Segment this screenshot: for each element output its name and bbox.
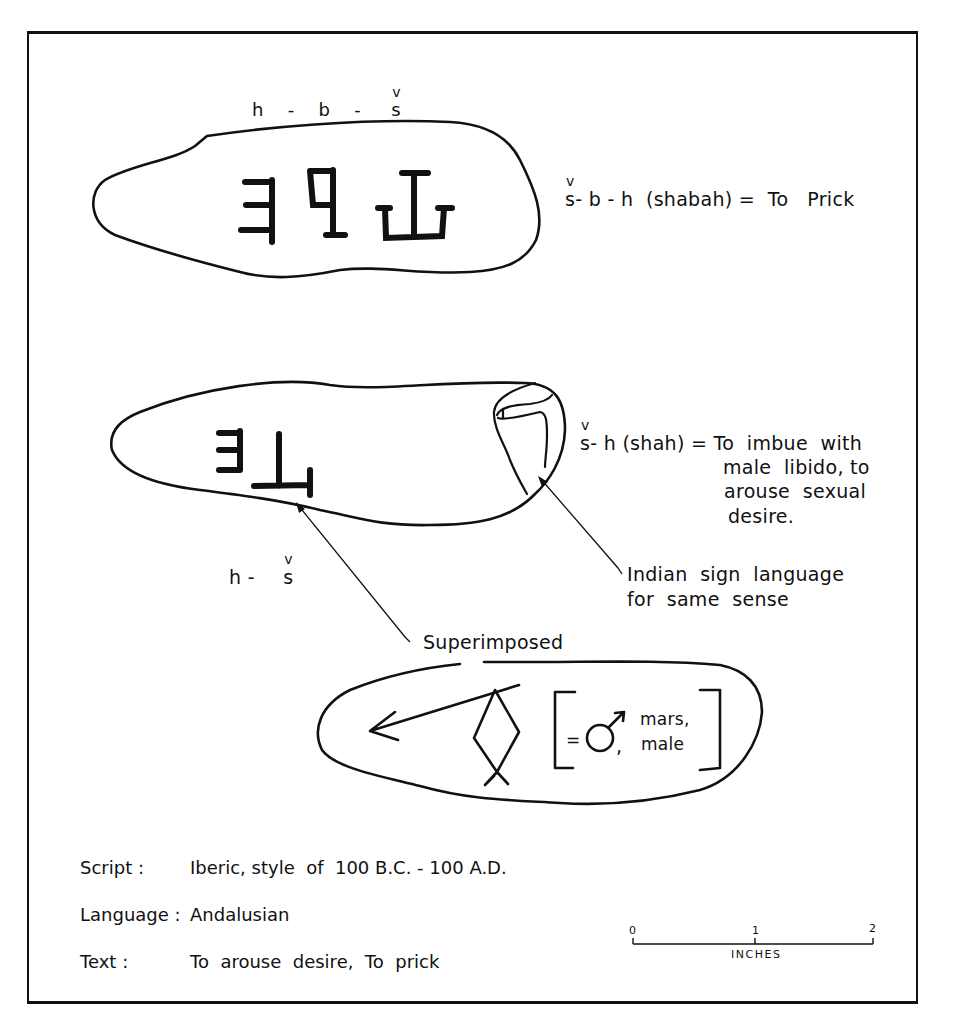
equals-sign: = xyxy=(566,729,581,751)
metadata-language: Language :Andalusian xyxy=(80,904,289,926)
metadata-script: Script :Iberic, style of 100 B.C. - 100 … xyxy=(80,857,507,879)
callout-line-2: for same sense xyxy=(627,588,844,610)
tablet-1-gloss: s- b - h (shabah) = To Prick xyxy=(565,188,855,210)
sign-callout-line xyxy=(540,478,622,574)
right-bracket xyxy=(700,690,720,770)
scale-tick-2: 2 xyxy=(869,922,876,935)
metadata-text: Text :To arouse desire, To prick xyxy=(80,951,439,973)
translit-dash: - xyxy=(288,99,295,120)
meta-key-text: Text : xyxy=(80,951,190,973)
meta-key-script: Script : xyxy=(80,857,190,879)
meta-key-language: Language : xyxy=(80,904,190,926)
tablet-3-outline xyxy=(318,662,762,804)
tablet-1-outline xyxy=(93,121,539,277)
translit-s-caron: s xyxy=(283,566,293,588)
meta-val-script: Iberic, style of 100 B.C. - 100 A.D. xyxy=(190,857,507,879)
gloss-s-caron: s xyxy=(580,432,590,454)
tablet-2-glyphs xyxy=(219,431,310,495)
scale-bar xyxy=(633,938,873,944)
tablet-2-gloss-line-2: male libido, to xyxy=(723,456,870,478)
gloss-text: - b - h (shabah) = To Prick xyxy=(575,188,854,210)
scale-tick-0: 0 xyxy=(629,924,636,937)
gloss-line-1: - h (shah) = To imbue with xyxy=(590,432,862,454)
hand-sign-icon xyxy=(494,383,552,494)
meta-val-text: To arouse desire, To prick xyxy=(190,951,439,973)
tablet-2-gloss-line-4: desire. xyxy=(728,505,794,527)
translit-b: b xyxy=(319,99,331,120)
tablet-1-transliteration: h - b - s xyxy=(252,99,401,121)
translit-h: h xyxy=(252,99,264,120)
translit-s-caron: s xyxy=(391,99,401,121)
tablet-2-transliteration: h - s xyxy=(229,566,293,588)
meta-val-language: Andalusian xyxy=(190,904,289,926)
mars-symbol-icon xyxy=(587,725,613,751)
symbol-comma: , xyxy=(616,735,622,757)
tablet-2-gloss: s- h (shah) = To imbue with xyxy=(580,432,862,454)
scale-tick-1: 1 xyxy=(752,924,759,937)
superimposed-label: Superimposed xyxy=(423,631,563,653)
superimposed-callout-line xyxy=(298,505,410,642)
meaning-male: male xyxy=(641,733,684,755)
scale-unit: INCHES xyxy=(731,948,781,961)
gloss-s-caron: s xyxy=(565,188,575,210)
translit-h: h - xyxy=(229,566,255,588)
translit-dash: - xyxy=(354,99,361,120)
meaning-mars: mars, xyxy=(640,708,690,730)
callout-line-1: Indian sign language xyxy=(627,563,844,585)
diamond-glyph xyxy=(474,690,519,785)
sign-language-callout: Indian sign language for same sense xyxy=(627,563,844,610)
tablet-1-glyphs xyxy=(241,170,452,242)
tablet-2-gloss-line-3: arouse sexual xyxy=(724,480,866,502)
